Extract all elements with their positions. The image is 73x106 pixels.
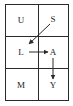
cell-label-y: Y — [50, 81, 57, 90]
grid-horizontal-divider-1 — [6, 36, 68, 37]
cell-label-a: A — [50, 48, 57, 57]
grid-frame — [5, 4, 69, 101]
cell-label-l: L — [18, 48, 24, 57]
grid-horizontal-divider-2 — [6, 68, 68, 69]
cell-label-s: S — [50, 15, 55, 24]
cell-label-u: U — [18, 16, 25, 25]
cell-label-m: M — [17, 81, 25, 90]
grid-vertical-divider — [38, 5, 39, 100]
